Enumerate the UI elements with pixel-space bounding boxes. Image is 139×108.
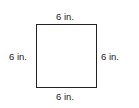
bottom-side-label: 6 in. [56,92,74,102]
square-shape [36,24,97,88]
right-side-label: 6 in. [101,52,119,62]
left-side-label: 6 in. [9,52,27,62]
top-side-label: 6 in. [56,12,74,22]
